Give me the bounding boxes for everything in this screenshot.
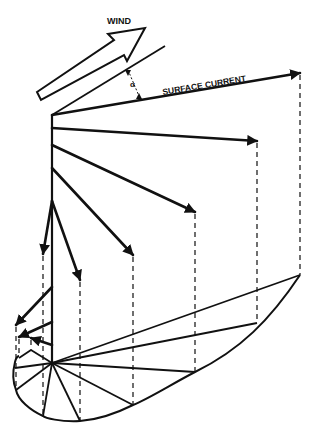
current-arrow-4 [52,201,80,280]
angle-alpha-label: α [130,80,135,89]
current-arrow-7 [19,322,52,337]
current-arrow-8 [31,338,52,345]
surface-current-arrow [52,73,300,115]
current-arrow-5 [43,201,52,254]
current-arrow-3 [52,168,133,255]
wind-arrow-icon [37,28,145,100]
ekman-spiral-diagram: WIND α SURFACE CURRENT [0,0,321,437]
current-arrow-1 [52,128,257,141]
current-arrow-2 [52,145,195,212]
wind-label: WIND [107,16,131,26]
current-arrow-6 [16,287,52,325]
